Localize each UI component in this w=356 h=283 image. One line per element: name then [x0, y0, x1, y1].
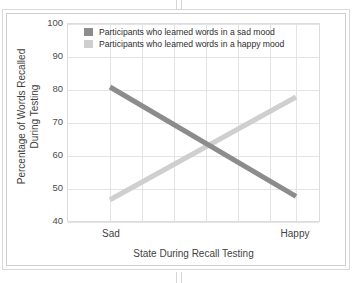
- legend-label-happy-mood: Participants who learned words in a happ…: [99, 39, 284, 49]
- registration-mark-top: [176, 0, 182, 9]
- registration-mark-bottom: [176, 272, 182, 283]
- legend-item-sad-mood: Participants who learned words in a sad …: [84, 27, 284, 37]
- y-tick-label-40: 40: [33, 216, 63, 226]
- figure-container: 100 90 80 70 60 50 40 Sad Happy State Du…: [0, 0, 356, 283]
- legend-item-happy-mood: Participants who learned words in a happ…: [84, 39, 284, 49]
- x-axis-title: State During Recall Testing: [67, 248, 320, 259]
- legend-label-sad-mood: Participants who learned words in a sad …: [99, 27, 275, 37]
- y-axis-title-line2: During Testing: [28, 85, 39, 149]
- series-lines: [68, 24, 321, 223]
- y-axis-title: Percentage of Words Recalled During Test…: [16, 27, 41, 207]
- line-sad-mood: [110, 87, 296, 196]
- x-tick-label-sad: Sad: [87, 228, 135, 240]
- line-happy-mood: [110, 97, 296, 200]
- legend: Participants who learned words in a sad …: [84, 27, 284, 51]
- legend-swatch-sad-mood: [84, 28, 93, 36]
- plot-area: [67, 23, 320, 222]
- x-tick-label-happy: Happy: [271, 228, 319, 240]
- legend-swatch-happy-mood: [84, 40, 93, 48]
- y-axis-title-line1: Percentage of Words Recalled: [16, 49, 27, 184]
